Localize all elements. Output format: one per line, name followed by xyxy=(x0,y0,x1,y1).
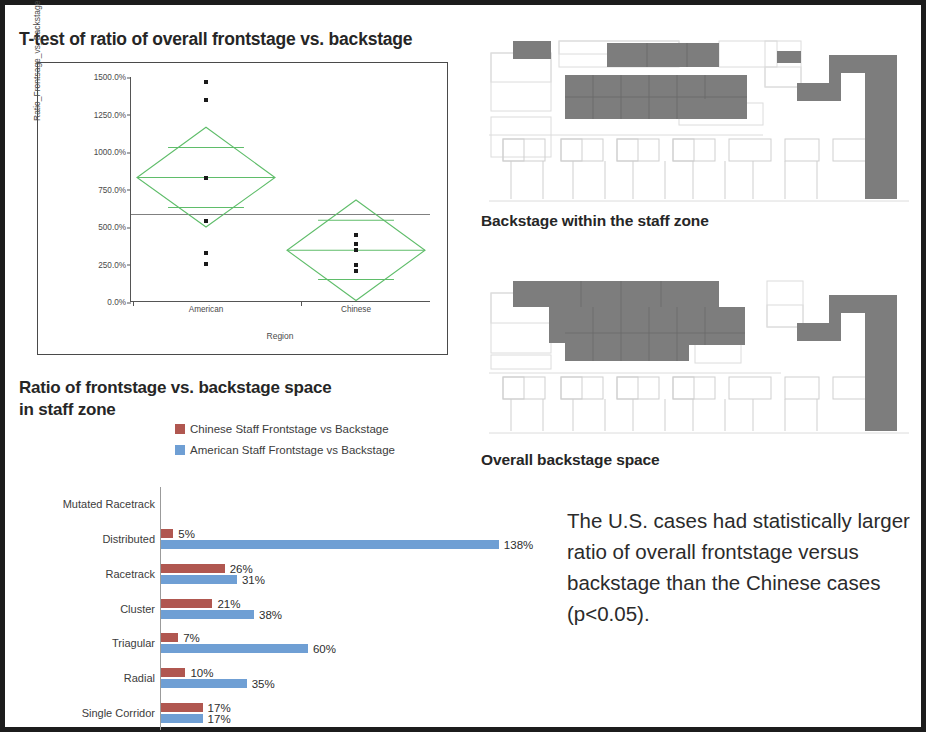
bar-value-label: 31% xyxy=(242,574,265,586)
bar-category-label: Single Corridor xyxy=(82,707,155,719)
conclusion-paragraph: The U.S. cases had statistically larger … xyxy=(567,505,919,630)
bar-value-label: 7% xyxy=(183,632,200,644)
bar-segment xyxy=(161,599,212,608)
ttest-chart-title: T-test of ratio of overall frontstage vs… xyxy=(19,29,459,50)
bar-segment xyxy=(161,529,173,538)
bar-category-label: Mutated Racetrack xyxy=(63,498,155,510)
bar-value-label: 35% xyxy=(252,678,275,690)
legend-label: Chinese Staff Frontstage vs Backstage xyxy=(190,423,389,435)
ttest-x-tick-label: Chinese xyxy=(341,305,371,314)
ttest-y-tick: 750.0% xyxy=(98,185,126,194)
floorplan-1-room-grid xyxy=(503,139,867,199)
bar-value-label: 138% xyxy=(504,539,533,551)
bar-value-label: 10% xyxy=(190,667,213,679)
ttest-y-tick: 500.0% xyxy=(98,223,126,232)
legend-swatch-icon xyxy=(175,424,185,434)
bar-chart-title: Ratio of frontstage vs. backstage space … xyxy=(19,377,349,422)
floorplan-1-backstage-fill xyxy=(513,41,897,199)
legend-label: American Staff Frontstage vs Backstage xyxy=(190,444,395,456)
bar-segment xyxy=(161,668,185,677)
floorplan-2-room-grid xyxy=(503,377,867,431)
floorplan-2-svg xyxy=(481,263,917,439)
bar-value-label: 60% xyxy=(313,643,336,655)
ttest-data-point xyxy=(354,248,358,252)
ttest-y-tick: 1500.0% xyxy=(94,73,126,82)
bar-segment xyxy=(161,610,254,619)
floorplan-2-caption: Overall backstage space xyxy=(481,451,660,469)
bar-value-label: 17% xyxy=(208,713,231,725)
slide-content: T-test of ratio of overall frontstage vs… xyxy=(5,5,921,727)
ttest-data-point xyxy=(354,242,358,246)
ttest-y-tick: 0.0% xyxy=(107,298,126,307)
bar-category-label: Racetrack xyxy=(105,568,155,580)
legend-item-american: American Staff Frontstage vs Backstage xyxy=(175,444,395,456)
floorplan-2-backstage-fill xyxy=(513,281,897,431)
bar-category-label: Radial xyxy=(124,672,155,684)
bar-segment xyxy=(161,679,247,688)
bar-segment xyxy=(161,703,203,712)
bar-chart-legend: Chinese Staff Frontstage vs BackstageAme… xyxy=(175,423,395,465)
ttest-chart-panel: Ratio_Frontsage_vs_Backstage 0.0%250.0%5… xyxy=(37,62,448,355)
bar-segment xyxy=(161,575,237,584)
ttest-data-point xyxy=(354,263,358,267)
bar-segment xyxy=(161,633,178,642)
bar-segment xyxy=(161,564,225,573)
slide-frame: T-test of ratio of overall frontstage vs… xyxy=(0,0,926,732)
bar-value-label: 5% xyxy=(178,528,195,540)
ttest-y-axis-label: Ratio_Frontsage_vs_Backstage xyxy=(32,1,42,122)
bar-chart-plot-area: Mutated RacetrackDistributed5%138%Racetr… xyxy=(15,487,575,732)
bar-category-label: Triagular xyxy=(112,637,155,649)
bar-chart-category-axis xyxy=(160,487,161,730)
ttest-mean-diamond-chinese xyxy=(131,77,431,302)
bar-value-label: 21% xyxy=(217,598,240,610)
legend-item-chinese: Chinese Staff Frontstage vs Backstage xyxy=(175,423,395,435)
ttest-y-tick: 1250.0% xyxy=(94,110,126,119)
bar-segment xyxy=(161,714,203,723)
ttest-data-point xyxy=(354,233,358,237)
ttest-y-tick: 1000.0% xyxy=(94,148,126,157)
bar-value-label: 38% xyxy=(259,609,282,621)
legend-swatch-icon xyxy=(175,445,185,455)
ttest-plot-area: 0.0%250.0%500.0%750.0%1000.0%1250.0%1500… xyxy=(130,77,430,302)
floorplan-1-svg xyxy=(481,27,917,209)
floorplan-overall-backstage xyxy=(481,263,917,439)
ttest-y-tick: 250.0% xyxy=(98,260,126,269)
ttest-x-axis-label: Region xyxy=(130,331,430,341)
bar-category-label: Distributed xyxy=(102,533,155,545)
ttest-x-tick-label: American xyxy=(189,305,224,314)
bar-segment xyxy=(161,540,499,549)
bar-segment xyxy=(161,644,308,653)
bar-category-label: Cluster xyxy=(120,603,155,615)
floorplan-1-caption: Backstage within the staff zone xyxy=(481,212,709,230)
floorplan-backstage-staff-zone xyxy=(481,27,917,209)
ttest-data-point xyxy=(354,269,358,273)
